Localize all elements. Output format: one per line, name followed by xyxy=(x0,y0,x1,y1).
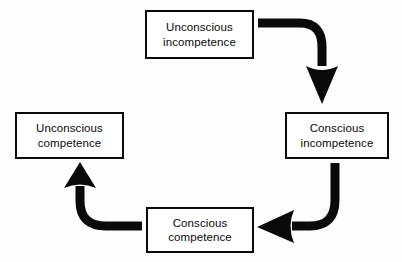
arrow-right-to-bottom xyxy=(257,163,335,243)
node-unconscious-competence: Unconscious competence xyxy=(15,112,124,159)
arrow-bottom-to-left xyxy=(64,162,142,226)
node-label-line1: Conscious xyxy=(173,216,228,231)
node-label-line1: Conscious xyxy=(310,121,365,136)
node-conscious-competence: Conscious competence xyxy=(146,207,254,253)
node-unconscious-incompetence: Unconscious incompetence xyxy=(145,10,254,59)
arrow-top-to-right xyxy=(258,23,338,104)
node-label-line2: incompetence xyxy=(163,35,236,50)
diagram-canvas: Unconscious incompetence Conscious incom… xyxy=(0,0,402,262)
node-label-line2: competence xyxy=(168,230,232,245)
node-label-line1: Unconscious xyxy=(166,20,233,35)
node-conscious-incompetence: Conscious incompetence xyxy=(285,112,389,159)
node-label-line2: incompetence xyxy=(301,136,374,151)
node-label-line2: competence xyxy=(38,136,102,151)
node-label-line1: Unconscious xyxy=(36,121,103,136)
